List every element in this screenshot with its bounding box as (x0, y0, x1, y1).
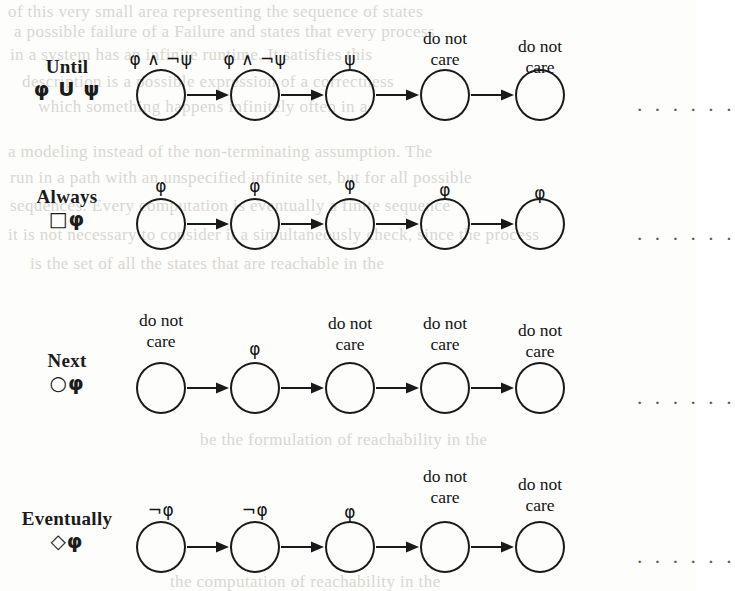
bleedthrough-line: be the formulation of reachability in th… (200, 430, 487, 450)
transition-arrow (281, 380, 324, 396)
state-circle (230, 198, 280, 250)
state-circle (325, 521, 375, 573)
transition-arrow (376, 539, 419, 555)
transition-arrow (471, 380, 514, 396)
state-label: do not care (391, 466, 499, 507)
bleedthrough-line: of this very small area representing the… (8, 2, 423, 22)
state-circle (136, 198, 186, 250)
transition-arrow (281, 216, 324, 232)
state-label: ¬φ (201, 501, 309, 520)
state-circle (136, 69, 186, 121)
state-circle (136, 521, 186, 573)
transition-arrow (281, 539, 324, 555)
state-circle (420, 69, 470, 121)
state-label: φ (201, 340, 309, 359)
operator-formula: φ U ψ (6, 78, 128, 101)
state-label: do not care (486, 474, 594, 515)
state-label: do not care (486, 320, 594, 361)
state-label: do not care (107, 310, 215, 351)
operator-formula: ◇φ (6, 530, 128, 553)
state-circle (136, 362, 186, 414)
state-label: φ (391, 181, 499, 200)
state-circle (420, 521, 470, 573)
bleedthrough-line: a modeling instead of the non-terminatin… (8, 142, 433, 162)
state-label: do not care (296, 313, 404, 354)
state-circle (515, 521, 565, 573)
operator-name: Next (6, 350, 128, 372)
state-circle (420, 198, 470, 250)
state-label: ¬φ (107, 501, 215, 520)
bleedthrough-line: is the set of all the states that are re… (30, 254, 384, 274)
transition-arrow (471, 539, 514, 555)
bleedthrough-line: a possible failure of a Failure and stat… (14, 22, 435, 42)
transition-arrow (471, 216, 514, 232)
continuation-ellipsis: · · · · · · (636, 226, 735, 252)
continuation-ellipsis: · · · · · · (636, 97, 735, 123)
state-label: do not care (391, 28, 499, 69)
continuation-ellipsis: · · · · · · (636, 390, 735, 416)
transition-arrow (187, 87, 229, 103)
state-label: φ (296, 175, 404, 194)
state-label: do not care (486, 36, 594, 77)
state-circle (515, 362, 565, 414)
transition-arrow (187, 539, 229, 555)
bleedthrough-line: the computation of reachability in the (170, 572, 441, 591)
state-label: φ ∧ ¬ψ (201, 50, 309, 69)
transition-arrow (187, 380, 229, 396)
state-circle (420, 362, 470, 414)
state-circle (515, 198, 565, 250)
state-label: φ (296, 503, 404, 522)
state-label: ψ (296, 50, 404, 69)
state-circle (325, 198, 375, 250)
transition-arrow (376, 216, 419, 232)
state-circle (230, 521, 280, 573)
transition-arrow (376, 380, 419, 396)
transition-arrow (187, 216, 229, 232)
state-label: φ (107, 177, 215, 196)
transition-arrow (281, 87, 324, 103)
state-label: do not care (391, 313, 499, 354)
state-circle (230, 362, 280, 414)
state-circle (325, 362, 375, 414)
state-label: φ (201, 177, 309, 196)
operator-formula: ○φ (6, 372, 128, 395)
transition-arrow (376, 87, 419, 103)
operator-formula: □φ (6, 208, 128, 231)
state-label: φ (486, 184, 594, 203)
operator-label-next: Next○φ (6, 350, 128, 395)
state-circle (325, 69, 375, 121)
transition-arrow (471, 87, 514, 103)
state-label: φ ∧ ¬ψ (107, 50, 215, 69)
continuation-ellipsis: · · · · · · (636, 549, 735, 575)
state-circle (230, 69, 280, 121)
